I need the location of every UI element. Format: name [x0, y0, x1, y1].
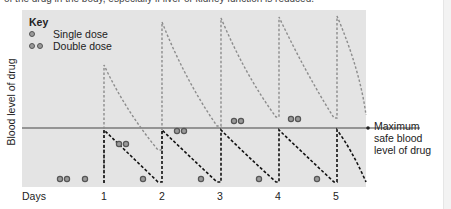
threshold-label-line1: Maximum: [374, 120, 431, 132]
threshold-end-dot: [366, 126, 370, 130]
x-tick-5: 5: [333, 190, 339, 202]
threshold-label-line2: safe blood: [374, 132, 431, 144]
x-tick-3: 3: [217, 190, 223, 202]
legend-item-double: Double dose: [29, 40, 112, 52]
legend: Key Single dose Double dose: [29, 16, 112, 52]
threshold-label-line3: level of drug: [374, 144, 431, 156]
single-dose-curve: [104, 130, 366, 183]
x-axis-label: Days: [22, 190, 46, 202]
legend-item-single: Single dose: [29, 28, 112, 40]
legend-label-single: Single dose: [53, 28, 108, 40]
single-dose-markers: [82, 176, 319, 181]
single-dose-marker-icon: [29, 31, 47, 37]
threshold-label: Maximum safe blood level of drug: [374, 120, 431, 156]
y-axis-label: Blood level of drug: [5, 57, 17, 147]
x-tick-4: 4: [275, 190, 281, 202]
x-tick-2: 2: [159, 190, 165, 202]
double-dose-marker-icon: [29, 43, 47, 49]
double-dose-curve: [80, 16, 366, 183]
legend-label-double: Double dose: [53, 40, 112, 52]
legend-title: Key: [29, 16, 112, 28]
x-tick-1: 1: [101, 190, 107, 202]
